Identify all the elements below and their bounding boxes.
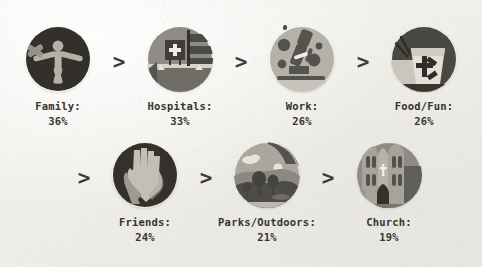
ranking-item-caption: Food/Fun: 26% <box>395 99 454 129</box>
ranking-item-label: Family: <box>35 100 81 112</box>
high-five-hands-icon <box>112 142 178 208</box>
ranking-item-parks-outdoors[interactable]: Parks/Outdoors: 21% <box>219 142 315 245</box>
ranking-item-label: Food/Fun: <box>395 100 454 112</box>
ranking-item-label: Hospitals: <box>147 100 212 112</box>
ranking-item-caption: Parks/Outdoors: 21% <box>218 215 316 245</box>
ranking-item-family[interactable]: Family: 36% <box>10 26 106 129</box>
ranking-item-value: 19% <box>366 230 412 245</box>
chevron-right-icon: > <box>350 26 376 102</box>
ranking-item-label: Parks/Outdoors: <box>218 216 316 228</box>
ranking-row-top: Family: 36% > <box>0 26 482 129</box>
chevron-right-icon: > <box>193 142 219 218</box>
ranking-item-friends[interactable]: Friends: 24% <box>97 142 193 245</box>
ranking-item-hospitals[interactable]: Hospitals: 33% <box>132 26 228 129</box>
ranking-item-caption: Family: 36% <box>35 99 81 129</box>
ranking-item-church[interactable]: Church: 19% <box>341 142 437 245</box>
ranking-item-value: 21% <box>218 230 316 245</box>
ranking-row-bottom: > <box>0 142 482 245</box>
chevron-right-icon: > <box>106 26 132 102</box>
ranking-item-work[interactable]: Work: 26% <box>254 26 350 129</box>
ranking-item-value: 26% <box>395 114 454 129</box>
chevron-right-icon: > <box>71 142 97 218</box>
church-building-icon <box>356 142 422 208</box>
hospital-building-icon <box>147 26 213 92</box>
ranking-item-value: 36% <box>35 114 81 129</box>
ranking-item-value: 26% <box>286 114 319 129</box>
ranking-item-label: Friends: <box>119 216 171 228</box>
ranking-item-value: 24% <box>119 230 171 245</box>
chevron-right-icon: > <box>228 26 254 102</box>
chevron-right-icon: > <box>315 142 341 218</box>
family-figure-icon <box>25 26 91 92</box>
ranking-item-caption: Church: 19% <box>366 215 412 245</box>
ranking-item-caption: Friends: 24% <box>119 215 171 245</box>
ranking-item-label: Church: <box>366 216 412 228</box>
ranking-item-value: 33% <box>147 114 212 129</box>
ranking-infographic: Family: 36% > <box>0 0 482 267</box>
popcorn-container-icon <box>391 26 457 92</box>
ranking-item-caption: Hospitals: 33% <box>147 99 212 129</box>
ranking-item-food-fun[interactable]: Food/Fun: 26% <box>376 26 472 129</box>
park-landscape-icon <box>234 142 300 208</box>
ranking-item-caption: Work: 26% <box>286 99 319 129</box>
ranking-item-label: Work: <box>286 100 319 112</box>
microscope-icon <box>269 26 335 92</box>
